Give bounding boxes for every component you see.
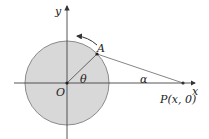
y-axis-label: y [54,5,62,18]
angle-theta-label: θ [80,73,87,86]
point-a-label: A [96,42,105,55]
point-p [181,81,184,84]
diagram-canvas: y x O A P(x, 0) θ α [0,0,209,139]
origin-label: O [56,86,65,99]
angle-alpha-label: α [140,73,148,86]
point-p-label: P(x, 0) [159,93,196,106]
origin-point [65,81,68,84]
